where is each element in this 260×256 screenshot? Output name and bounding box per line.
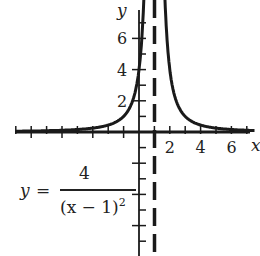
x-tick-label: 2: [165, 138, 175, 157]
x-axis-label: x: [251, 135, 260, 155]
equation-lhs: y: [20, 180, 30, 200]
x-tick-label: 4: [196, 138, 206, 157]
y-tick-label: 2: [117, 92, 127, 111]
y-axis-label: y: [116, 0, 127, 20]
equation-numerator: 4: [79, 163, 90, 183]
equation-equals: =: [36, 180, 50, 200]
denominator-exponent: 2: [119, 196, 126, 209]
y-tick-label: 6: [117, 29, 127, 48]
y-tick-label: 4: [117, 61, 127, 80]
denominator-base: (x − 1): [60, 197, 119, 217]
x-tick-label: 6: [226, 138, 236, 157]
curve-right-branch: [165, 0, 255, 130]
equation-label: y = 4 (x − 1)2: [20, 168, 120, 228]
equation-denominator: (x − 1)2: [60, 196, 126, 217]
fraction-bar: [60, 189, 136, 191]
